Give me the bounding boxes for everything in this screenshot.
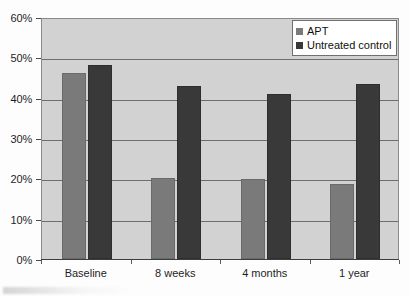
y-tick-label: 40% [11, 93, 32, 104]
y-tick-mark [36, 179, 41, 180]
y-tick-label: 20% [11, 174, 32, 185]
bar-untreated-control [177, 86, 201, 259]
x-tick-mark [131, 260, 132, 264]
legend-item[interactable]: Untreated control [296, 38, 391, 52]
bar-apt [62, 73, 86, 259]
x-tick-label: 1 year [339, 267, 370, 279]
scan-artifact [3, 287, 133, 294]
x-tick-mark [399, 260, 400, 264]
y-tick-mark [36, 99, 41, 100]
y-tick-label: 50% [11, 53, 32, 64]
y-tick-label: 30% [11, 134, 32, 145]
legend-swatch-icon [296, 42, 303, 49]
y-tick-label: 60% [11, 13, 32, 24]
bar-untreated-control [88, 65, 112, 259]
y-tick-label: 10% [11, 214, 32, 225]
x-tick-mark [41, 260, 42, 264]
bar-apt [151, 178, 175, 259]
x-tick-label: Baseline [65, 267, 107, 279]
chart-legend: APTUntreated control [292, 20, 397, 56]
x-tick-label: 8 weeks [155, 267, 195, 279]
legend-swatch-icon [296, 28, 303, 35]
legend-label: Untreated control [307, 39, 391, 51]
x-tick-label: 4 months [242, 267, 287, 279]
y-tick-mark [36, 139, 41, 140]
y-axis: 0%10%20%30%40%50%60% [0, 18, 36, 260]
x-tick-mark [310, 260, 311, 264]
y-tick-mark [36, 220, 41, 221]
bar-untreated-control [267, 94, 291, 259]
bar-untreated-control [356, 84, 380, 259]
y-tick-mark [36, 58, 41, 59]
legend-label: APT [307, 25, 328, 37]
y-tick-label: 0% [17, 255, 33, 266]
bar-group [132, 19, 222, 259]
x-tick-mark [220, 260, 221, 264]
legend-item[interactable]: APT [296, 24, 391, 38]
bar-chart: 0%10%20%30%40%50%60% APTUntreated contro… [0, 0, 410, 296]
y-tick-mark [36, 18, 41, 19]
bar-apt [330, 184, 354, 259]
bar-apt [241, 179, 265, 259]
bar-group [42, 19, 132, 259]
